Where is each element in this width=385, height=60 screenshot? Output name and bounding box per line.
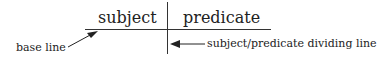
divider-arrowhead bbox=[170, 40, 180, 48]
base-line-arrow bbox=[68, 34, 92, 47]
divider-label: subject/predicate dividing line bbox=[207, 38, 377, 49]
base-line-arrowhead bbox=[87, 31, 98, 38]
subject-word: subject bbox=[98, 10, 157, 26]
base-line-label: base line bbox=[16, 42, 66, 53]
predicate-word: predicate bbox=[183, 10, 260, 26]
